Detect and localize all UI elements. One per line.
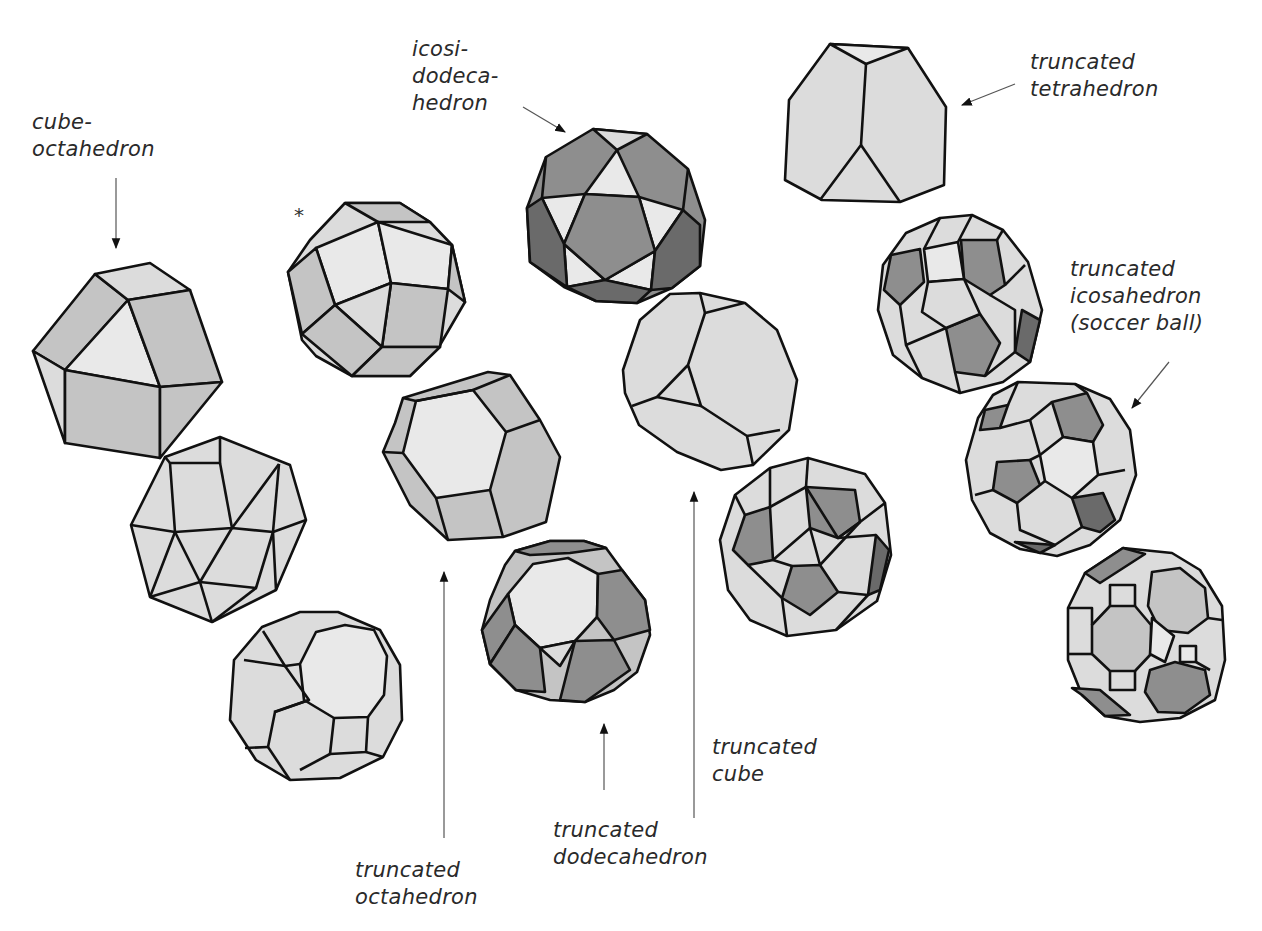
- rhombicosidodecahedron-shape: [878, 215, 1042, 393]
- rhombicuboctahedron-shape: [288, 203, 465, 376]
- truncated-cube-shape: [623, 293, 797, 470]
- truncated-dodecahedron-shape: [482, 541, 650, 702]
- label-truncated-octahedron: truncated octahedron: [355, 857, 478, 911]
- truncated-icosidodecahedron-shape: [1068, 548, 1225, 722]
- truncated-cuboctahedron-shape: [230, 612, 402, 780]
- polyhedra-illustration: [0, 0, 1262, 931]
- snub-cube-shape: [131, 437, 306, 622]
- asterisk-marker: *: [294, 203, 304, 227]
- label-truncated-cube: truncated cube: [712, 734, 817, 788]
- truncated-icosahedron-shape: [966, 382, 1136, 556]
- arrow-truncated-tetrahedron: [962, 84, 1015, 105]
- label-cuboctahedron: cube- octahedron: [32, 109, 155, 163]
- truncated-tetrahedron-shape: [785, 44, 946, 202]
- arrow-icosidodecahedron: [523, 107, 565, 132]
- arrow-truncated-icosahedron: [1132, 362, 1169, 408]
- truncated-octahedron-shape: [383, 372, 560, 540]
- snub-dodecahedron-shape: [720, 458, 891, 636]
- label-icosidodecahedron: icosi- dodeca- hedron: [412, 36, 499, 117]
- icosidodecahedron-shape: [527, 129, 705, 303]
- label-truncated-dodecahedron: truncated dodecahedron: [553, 817, 708, 871]
- label-truncated-icosahedron: truncated icosahedron (soccer ball): [1070, 256, 1203, 337]
- label-truncated-tetrahedron: truncated tetrahedron: [1030, 49, 1159, 103]
- figure-canvas: cube- octahedron icosi- dodeca- hedron t…: [0, 0, 1262, 931]
- cuboctahedron-shape: [33, 263, 222, 458]
